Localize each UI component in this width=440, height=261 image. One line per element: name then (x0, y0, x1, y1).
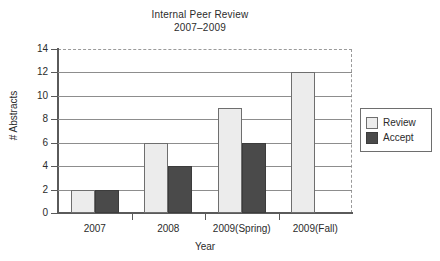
legend-swatch-review (366, 117, 378, 129)
y-axis-tick (51, 166, 57, 167)
y-axis-tick (51, 143, 57, 144)
legend-item-accept: Accept (366, 130, 426, 145)
bar-review-1 (144, 143, 168, 213)
y-axis-tick (51, 213, 57, 214)
y-axis-tick-label-wrap: 0 (0, 208, 48, 218)
bar-accept-0 (95, 190, 119, 213)
x-axis-tick (279, 214, 280, 220)
x-axis-tick-label: 2008 (132, 223, 206, 235)
y-axis-title: # Abstracts (8, 61, 19, 171)
chart-title-block: Internal Peer Review 2007–2009 (0, 8, 400, 34)
bar-chart: Internal Peer Review 2007–2009 024681012… (0, 0, 440, 261)
x-axis-tick (132, 214, 133, 220)
x-axis-tick-label: 2009(Spring) (205, 223, 279, 235)
y-axis-tick-label-wrap: 14 (0, 44, 48, 54)
bar-accept-2 (242, 143, 266, 213)
bar-accept-1 (168, 166, 192, 213)
y-axis-tick (51, 96, 57, 97)
y-axis-tick (51, 119, 57, 120)
chart-title: Internal Peer Review (0, 8, 400, 21)
legend-label: Accept (383, 132, 414, 144)
y-axis-tick-label-wrap: 2 (0, 185, 48, 195)
x-axis-tick-label: 2007 (58, 223, 132, 235)
x-axis-title: Year (58, 241, 352, 252)
y-axis-tick (51, 49, 57, 50)
y-axis-tick (51, 72, 57, 73)
y-axis-tick-label: 14 (0, 44, 48, 54)
bar-review-2 (218, 108, 242, 213)
y-axis-tick-label: 0 (0, 208, 48, 218)
legend-item-review: Review (366, 115, 426, 130)
chart-subtitle: 2007–2009 (0, 21, 400, 34)
bar-review-0 (71, 190, 95, 213)
bar-review-3 (291, 72, 315, 213)
x-axis-tick-label: 2009(Fall) (279, 223, 353, 235)
legend-swatch-accept (366, 132, 378, 144)
y-axis-tick-label: 2 (0, 185, 48, 195)
legend: ReviewAccept (360, 108, 432, 152)
bars-layer (58, 49, 352, 213)
x-axis-tick (205, 214, 206, 220)
legend-label: Review (383, 117, 416, 129)
y-axis-tick (51, 190, 57, 191)
